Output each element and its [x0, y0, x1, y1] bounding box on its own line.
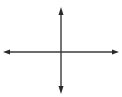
down-arrowhead-icon	[59, 86, 64, 94]
coordinate-axes-diagram	[0, 0, 122, 97]
right-arrowhead-icon	[112, 50, 119, 55]
up-arrowhead-icon	[59, 7, 64, 15]
y-axis	[59, 7, 64, 94]
left-arrowhead-icon	[3, 50, 10, 55]
